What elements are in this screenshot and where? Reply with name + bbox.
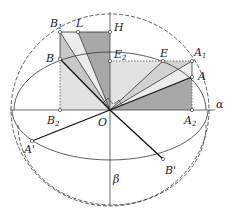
label-b1: B1 — [49, 17, 63, 31]
label-b: B — [45, 52, 54, 65]
label-e2: E2 — [113, 48, 127, 62]
label-l: L — [75, 17, 83, 30]
label-a2: A2 — [183, 114, 197, 128]
label-h: H — [113, 21, 124, 34]
label-a: A — [197, 70, 206, 83]
label-a-prime: A' — [23, 143, 35, 156]
label-e: E — [159, 47, 168, 60]
o-bprime-line — [110, 110, 163, 159]
label-alpha: α — [216, 98, 224, 111]
label-a1: A1 — [193, 46, 206, 60]
lower-meridian-arc — [18, 125, 206, 205]
geometry-diagram: B1 L H B E2 E A1 A B2 O A2 α A' B' β — [0, 0, 233, 213]
label-b2: B2 — [46, 114, 60, 128]
label-o: O — [98, 116, 107, 129]
label-b-prime: B' — [164, 164, 176, 177]
label-beta: β — [112, 173, 119, 186]
